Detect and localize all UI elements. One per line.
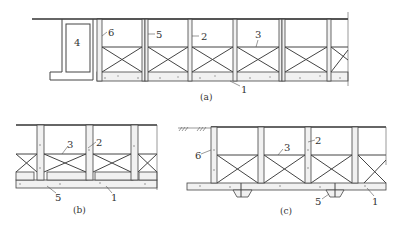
label-3: 3	[67, 139, 73, 150]
subfigure-b: 3 2 5 1 (b)	[16, 125, 157, 215]
caption-c: (c)	[280, 206, 292, 216]
label-1: 1	[241, 84, 247, 95]
label-5: 5	[55, 192, 61, 203]
label-2: 2	[201, 31, 207, 42]
label-6: 6	[195, 150, 201, 161]
label-1: 1	[111, 192, 117, 203]
subfigure-a: 4 6 5 2 3 1 (a)	[32, 12, 348, 102]
subfigure-c: 6 3 2 5 1 (c)	[178, 127, 386, 216]
caption-a: (a)	[200, 92, 212, 102]
label-2: 2	[96, 137, 102, 148]
label-1: 1	[372, 196, 378, 207]
diagram-canvas: 4 6 5 2 3 1 (a)	[0, 0, 399, 230]
label-3: 3	[255, 29, 261, 40]
label-5: 5	[156, 29, 162, 40]
label-4: 4	[74, 37, 80, 48]
label-2: 2	[315, 135, 321, 146]
label-5: 5	[315, 196, 321, 207]
label-3: 3	[284, 142, 290, 153]
caption-b: (b)	[73, 205, 86, 215]
label-6: 6	[108, 27, 114, 38]
